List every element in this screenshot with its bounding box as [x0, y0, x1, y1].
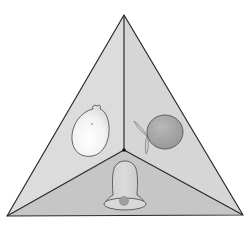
pyramid-diagram: Triangular pyramid viewed from above wit…	[0, 0, 252, 231]
bell-clapper	[120, 197, 129, 206]
pyramid-svg	[0, 0, 252, 231]
center-vertex	[122, 148, 126, 152]
